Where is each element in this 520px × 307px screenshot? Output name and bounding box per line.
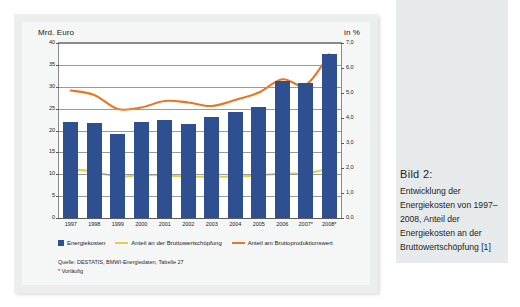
bar (204, 117, 219, 219)
y-axis-tickmark-right (341, 168, 344, 169)
bar (157, 120, 172, 218)
figure-caption: Bild 2: Entwicklung der Energiekosten vo… (400, 166, 506, 254)
y-axis-tickmark-right (341, 118, 344, 119)
source-line-0: Quelle: DESTATIS, BMWI-Energiedaten, Tab… (58, 258, 184, 267)
gridline (59, 43, 341, 44)
bar (275, 81, 290, 218)
bar (228, 112, 243, 218)
y-axis-tickmark-left (56, 109, 59, 110)
y-axis-tick-left: 15 (49, 149, 55, 155)
x-axis-tick-label: 2008* (322, 222, 336, 228)
legend-swatch-bar (58, 240, 64, 246)
figure-caption-body: Entwicklung der Energiekosten von 1997–2… (400, 186, 497, 252)
y-axis-tickmark-right (341, 193, 344, 194)
x-axis-tick-label: 2005 (253, 222, 265, 228)
y-axis-tickmark-left (56, 174, 59, 175)
plot-area: 05101520253035400,01,02,03,04,05,06,07,0… (58, 42, 342, 219)
bar (63, 122, 78, 218)
bar (322, 54, 337, 218)
x-axis-tick-label: 1997 (65, 222, 77, 228)
y-axis-tick-left: 0 (52, 215, 55, 221)
line-bruttoproduktionswert (71, 54, 330, 110)
y-axis-tick-right: 1,0 (346, 190, 354, 196)
y-axis-tick-right: 7,0 (346, 40, 354, 46)
y-axis-tickmark-right (341, 143, 344, 144)
y-axis-tickmark-left (56, 43, 59, 44)
x-axis-tick-label: 2007* (299, 222, 313, 228)
source-line-1: * Vorläufig (58, 267, 184, 276)
x-axis-tick-label: 1998 (88, 222, 100, 228)
figure-caption-title: Bild 2: (400, 166, 506, 184)
bar (110, 134, 125, 218)
y-axis-tick-right: 3,0 (346, 140, 354, 146)
bar (298, 83, 313, 218)
y-axis-title-left: Mrd. Euro (38, 28, 74, 37)
legend-label-0: Energiekosten (67, 240, 105, 246)
y-axis-tickmark-left (56, 65, 59, 66)
y-axis-tickmark-right (341, 218, 344, 219)
legend-label-1: Anteil an der Bruttowertschöpfung (131, 240, 221, 246)
legend-item-energiekosten: Energiekosten (58, 240, 105, 246)
legend-item-bruttowertschoepfung: Anteil an der Bruttowertschöpfung (115, 240, 221, 246)
x-axis-tick-label: 2000 (135, 222, 147, 228)
bar (181, 124, 196, 218)
gridline (59, 65, 341, 66)
y-axis-tickmark-left (56, 87, 59, 88)
y-axis-tick-left: 30 (49, 84, 55, 90)
y-axis-tickmark-right (341, 68, 344, 69)
x-axis-tick-label: 2006 (276, 222, 288, 228)
x-axis-tick-label: 1999 (112, 222, 124, 228)
y-axis-tick-right: 6,0 (346, 65, 354, 71)
y-axis-tick-left: 5 (52, 193, 55, 199)
y-axis-tickmark-left (56, 218, 59, 219)
y-axis-tickmark-right (341, 93, 344, 94)
x-axis-tick-label: 2003 (206, 222, 218, 228)
y-axis-tickmark-left (56, 152, 59, 153)
chart-legend: Energiekosten Anteil an der Bruttowertsc… (58, 240, 333, 246)
y-axis-tick-right: 0,0 (346, 215, 354, 221)
chart-source-note: Quelle: DESTATIS, BMWI-Energiedaten, Tab… (58, 258, 184, 275)
y-axis-tick-right: 2,0 (346, 165, 354, 171)
y-axis-title-right: in % (344, 28, 360, 37)
y-axis-tickmark-right (341, 43, 344, 44)
bar (134, 122, 149, 218)
legend-swatch-line-orange (232, 242, 245, 245)
chart-panel: Mrd. Euro in % 05101520253035400,01,02,0… (14, 14, 378, 293)
legend-item-bruttoproduktionswert: Anteil am Bruttoproduktionswert (232, 240, 333, 246)
x-axis-tick-label: 2004 (229, 222, 241, 228)
y-axis-tick-left: 35 (49, 62, 55, 68)
bar (251, 107, 266, 218)
x-axis-tick-label: 2001 (159, 222, 171, 228)
chart-inner-surface: Mrd. Euro in % 05101520253035400,01,02,0… (22, 22, 370, 285)
bar (87, 123, 102, 218)
y-axis-tickmark-left (56, 131, 59, 132)
legend-label-2: Anteil am Bruttoproduktionswert (248, 240, 333, 246)
y-axis-tick-right: 4,0 (346, 115, 354, 121)
y-axis-tickmark-left (56, 196, 59, 197)
y-axis-tick-left: 25 (49, 106, 55, 112)
x-axis-tick-label: 2002 (182, 222, 194, 228)
y-axis-tick-right: 5,0 (346, 90, 354, 96)
y-axis-tick-left: 10 (49, 171, 55, 177)
legend-swatch-line-yellow (115, 242, 128, 245)
y-axis-tick-left: 40 (49, 40, 55, 46)
y-axis-tick-left: 20 (49, 128, 55, 134)
